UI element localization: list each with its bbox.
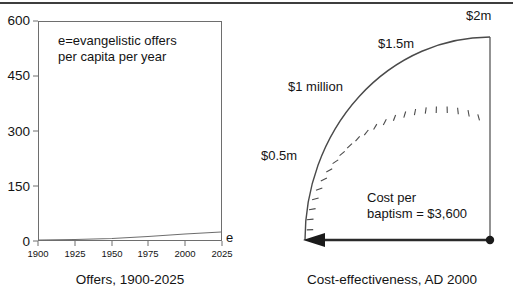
cost-per-baptism-note-line1: Cost per <box>367 190 416 206</box>
top-divider-rule <box>0 2 513 4</box>
series-label-e: e <box>226 231 233 244</box>
arc-label-1-million: $1 million <box>288 80 343 94</box>
cost-indicator-arrowhead <box>303 233 325 247</box>
y-tick-600: 600 <box>2 14 30 28</box>
y-tick-450: 450 <box>2 69 30 83</box>
y-tick-0: 0 <box>2 235 30 249</box>
x-tick-1925: 1925 <box>55 249 95 259</box>
figure-root: 600 450 300 150 0 1900 1925 1950 1975 20… <box>0 0 513 297</box>
offers-annotation-line2: per capita per year <box>58 49 166 65</box>
offers-annotation-line1: e=evangelistic offers <box>58 33 177 49</box>
x-tick-1900: 1900 <box>18 249 58 259</box>
scale-endpoint-dot <box>486 236 494 244</box>
offers-caption: Offers, 1900-2025 <box>30 273 230 287</box>
arc-label-2m: $2m <box>466 9 491 23</box>
y-tick-300: 300 <box>2 125 30 139</box>
cost-per-baptism-note-line2: baptism = $3,600 <box>367 206 467 222</box>
x-tick-1975: 1975 <box>128 249 168 259</box>
arc-label-0-5m: $0.5m <box>261 149 297 163</box>
y-tick-150: 150 <box>2 180 30 194</box>
arc-label-1-5m: $1.5m <box>378 37 414 51</box>
x-tick-1950: 1950 <box>92 249 132 259</box>
cost-effectiveness-caption: Cost-effectiveness, AD 2000 <box>272 273 512 287</box>
x-tick-2000: 2000 <box>165 249 205 259</box>
x-tick-2025: 2025 <box>202 249 242 259</box>
